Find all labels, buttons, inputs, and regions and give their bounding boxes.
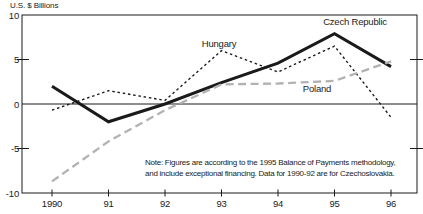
- x-tick-label: 96: [386, 198, 396, 209]
- x-tick-label: 94: [273, 198, 283, 209]
- x-tick-label: 91: [103, 198, 113, 209]
- y-tick-label: 0: [14, 99, 19, 110]
- series-label-czech-republic: Czech Republic: [323, 16, 387, 27]
- footnote: Note: Figures are according to the 1995 …: [145, 158, 420, 179]
- series-label-poland: Poland: [303, 83, 331, 94]
- x-tick-label: 1990: [42, 198, 62, 209]
- line-chart: 1050-5-101990919293949596 Czech Republic…: [0, 0, 423, 214]
- y-tick-label: -5: [11, 143, 19, 154]
- x-tick-label: 95: [329, 198, 339, 209]
- footnote-line1: Note: Figures are according to the 1995 …: [145, 158, 420, 169]
- chart-panel: U.S. $ Billions 1050-5-10199091929394959…: [0, 0, 423, 214]
- x-tick-label: 92: [160, 198, 170, 209]
- footnote-line2: and include exceptional financing. Data …: [145, 169, 420, 180]
- y-tick-label: 5: [14, 54, 19, 65]
- series-label-hungary: Hungary: [202, 38, 237, 49]
- y-tick-label: 10: [9, 10, 19, 21]
- x-tick-label: 93: [216, 198, 226, 209]
- y-tick-label: -10: [6, 188, 19, 199]
